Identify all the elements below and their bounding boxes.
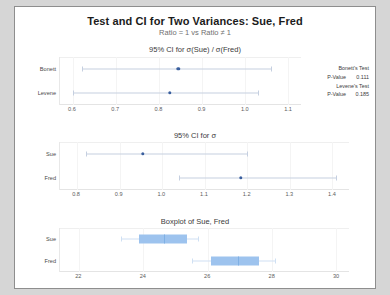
ci-interval-line: [86, 154, 248, 155]
boxplot-whisker-cap: [198, 237, 199, 242]
ci-interval-cap: [86, 152, 87, 157]
ratio-ci-panel-title: 95% CI for σ(Sue) / σ(Fred): [15, 45, 375, 54]
boxplot-whisker-cap: [192, 259, 193, 264]
axis-tick-label: 28: [269, 273, 275, 279]
gridline: [73, 57, 74, 105]
axis-tick-label: 1.0: [157, 191, 165, 197]
axis-tick-label: 1.0: [241, 106, 249, 112]
gridline: [202, 57, 203, 105]
ratio-ci-plot: BonettLevene: [59, 57, 301, 105]
bonett-pvalue-label: P-Value: [327, 73, 346, 82]
boxplot-whisker-cap: [121, 237, 122, 242]
bonett-pvalue-value: 0.111: [353, 73, 369, 82]
boxplot-whisker: [187, 239, 198, 240]
gridline: [205, 142, 206, 190]
ci-interval-line: [179, 178, 336, 179]
boxplot-box: [211, 257, 259, 266]
boxplot-row-label: Sue: [46, 236, 56, 242]
axis-tick-label: 24: [140, 273, 146, 279]
levene-pvalue-value: 0.185: [353, 90, 369, 99]
ci-interval-cap: [179, 176, 180, 181]
axis-tick-label: 0.7: [111, 106, 119, 112]
sigma-ci-axis-ticks: 0.80.91.01.11.21.31.4: [59, 191, 349, 201]
ratio-ci-axis-ticks: 0.60.70.80.91.01.1: [59, 106, 301, 116]
levene-test-heading: Levene's Test: [336, 82, 369, 91]
bonett-test-heading: Bonett's Test: [338, 64, 369, 73]
axis-tick-label: 1.2: [243, 191, 251, 197]
ci-interval-cap: [258, 91, 259, 96]
boxplot-whisker: [259, 261, 275, 262]
ci-row-label: Sue: [46, 151, 56, 157]
levene-pvalue-label: P-Value: [327, 90, 346, 99]
minitab-graph-sheet: Test and CI for Two Variances: Sue, Fred…: [14, 6, 376, 289]
axis-tick-label: 0.8: [155, 106, 163, 112]
test-statistics-panel: Bonett's Test P-Value 0.111 Levene's Tes…: [297, 64, 369, 99]
boxplot-whisker: [121, 239, 139, 240]
ci-interval-cap: [336, 176, 337, 181]
boxplot-box: [139, 235, 187, 244]
boxplot-row-label: Fred: [44, 258, 56, 264]
ci-row-label: Fred: [44, 175, 56, 181]
boxplot-axis-ticks: 2224262830: [59, 273, 349, 283]
gridline: [159, 57, 160, 105]
sigma-ci-panel-title: 95% CI for σ: [15, 131, 375, 140]
sigma-ci-plot: SueFred: [59, 142, 349, 190]
gridline: [245, 57, 246, 105]
gridline: [247, 142, 248, 190]
ci-interval-cap: [73, 91, 74, 96]
gridline: [208, 228, 209, 272]
page-title: Test and CI for Two Variances: Sue, Fred: [15, 15, 375, 27]
axis-tick-label: 30: [333, 273, 339, 279]
levene-pvalue-row: P-Value 0.185: [297, 90, 369, 99]
axis-tick-label: 26: [204, 273, 210, 279]
ci-interval-cap: [271, 67, 272, 72]
gridline: [77, 142, 78, 190]
ci-interval-cap: [82, 67, 83, 72]
axis-tick-label: 22: [75, 273, 81, 279]
ci-interval-cap: [247, 152, 248, 157]
boxplot-whisker: [192, 261, 211, 262]
gridline: [79, 228, 80, 272]
bonett-test-heading-row: Bonett's Test: [297, 64, 369, 73]
gridline: [120, 142, 121, 190]
axis-tick-label: 0.9: [198, 106, 206, 112]
ci-interval-line: [73, 93, 258, 94]
ci-row-label: Levene: [38, 90, 56, 96]
gridline: [116, 57, 117, 105]
gridline: [288, 57, 289, 105]
axis-tick-label: 0.9: [115, 191, 123, 197]
gridline: [336, 228, 337, 272]
page-subtitle: Ratio = 1 vs Ratio ≠ 1: [15, 28, 375, 37]
gridline: [162, 142, 163, 190]
gridline: [290, 142, 291, 190]
boxplot-plot: SueFred: [59, 228, 349, 272]
axis-tick-label: 1.3: [285, 191, 293, 197]
axis-tick-label: 0.6: [68, 106, 76, 112]
axis-tick-label: 0.8: [72, 191, 80, 197]
boxplot-median-line: [164, 235, 165, 244]
axis-tick-label: 1.1: [200, 191, 208, 197]
axis-tick-label: 1.1: [284, 106, 292, 112]
gridline: [332, 142, 333, 190]
gridline: [272, 228, 273, 272]
boxplot-whisker-cap: [275, 259, 276, 264]
boxplot-median-line: [238, 257, 239, 266]
levene-test-heading-row: Levene's Test: [297, 82, 369, 91]
boxplot-panel-title: Boxplot of Sue, Fred: [15, 217, 375, 226]
ci-row-label: Bonett: [40, 66, 56, 72]
bonett-pvalue-row: P-Value 0.111: [297, 73, 369, 82]
axis-tick-label: 1.4: [328, 191, 336, 197]
